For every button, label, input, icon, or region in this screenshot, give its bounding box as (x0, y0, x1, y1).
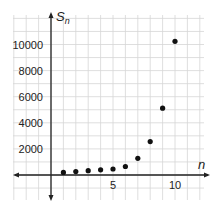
y-tick-label: 2000 (19, 143, 43, 155)
x-axis-arrow-right-icon (204, 173, 210, 178)
y-tick-label: 8000 (19, 65, 43, 77)
x-axis-label: n (198, 157, 205, 172)
data-point (135, 156, 140, 161)
data-point (86, 168, 91, 173)
y-axis-label: Sn (56, 9, 70, 26)
data-point (160, 106, 165, 111)
y-axis-arrow-up-icon (49, 12, 54, 18)
data-point (98, 167, 103, 172)
data-point (123, 164, 128, 169)
data-point (110, 166, 115, 171)
data-point (61, 170, 66, 175)
data-point (148, 139, 153, 144)
y-tick-label: 6000 (19, 91, 43, 103)
data-point (172, 39, 177, 44)
data-points (61, 39, 178, 175)
chart: 200040006000800010000510 Sn n (0, 0, 215, 208)
tick-labels: 200040006000800010000510 (12, 39, 181, 192)
y-tick-label: 4000 (19, 117, 43, 129)
y-tick-label: 10000 (12, 39, 43, 51)
x-tick-label: 10 (169, 179, 181, 191)
x-tick-label: 5 (110, 179, 116, 191)
data-point (73, 169, 78, 174)
y-axis-arrow-down-icon (49, 195, 54, 201)
